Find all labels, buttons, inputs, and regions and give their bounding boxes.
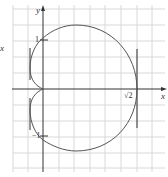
y-axis-arrow: [41, 5, 45, 11]
tick-label-neg1: −1: [32, 132, 41, 140]
x-axis-label: x: [161, 92, 165, 101]
axes: [12, 8, 164, 172]
polar-curve-plot: [0, 0, 168, 177]
y-axis-label: y: [36, 6, 40, 15]
tick-label-1: 1: [35, 36, 39, 44]
outer-x-label: x: [0, 44, 4, 53]
tick-label-sqrt2: √2: [124, 92, 132, 100]
